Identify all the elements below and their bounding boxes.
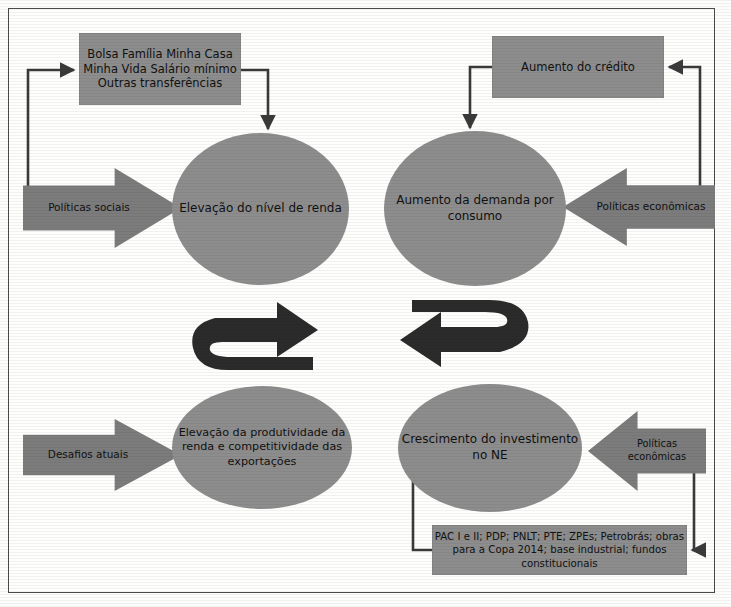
node-productivity-competitiveness-label: Elevação da produtividade da renda e com… xyxy=(172,426,352,470)
block-arrow-current-challenges-label: Desafios atuais xyxy=(48,448,128,462)
node-investment-growth-ne[interactable]: Crescimento do investimento no NE xyxy=(398,384,582,512)
node-productivity-competitiveness[interactable]: Elevação da produtividade da renda e com… xyxy=(172,386,352,509)
box-investment-programs-label: PAC I e II; PDP; PNLT; PTE; ZPEs; Petrob… xyxy=(432,530,687,569)
node-investment-growth-ne-label: Crescimento do investimento no NE xyxy=(398,432,582,463)
node-income-growth[interactable]: Elevação do nível de renda xyxy=(172,133,349,285)
cycle-arrow-left xyxy=(192,302,318,370)
box-credit-label: Aumento do crédito xyxy=(492,60,664,75)
block-arrow-social-policies-label: Políticas sociais xyxy=(48,201,130,215)
cycle-arrow-right xyxy=(400,300,528,367)
box-social-programs-label: Bolsa Família Minha Casa Minha Vida Salá… xyxy=(79,47,241,91)
box-investment-programs[interactable]: PAC I e II; PDP; PNLT; PTE; ZPEs; Petrob… xyxy=(432,525,687,575)
box-credit[interactable]: Aumento do crédito xyxy=(492,36,664,98)
block-arrow-economic-policies-top-label: Políticas econômicas xyxy=(597,200,706,214)
diagram-canvas: Políticas sociais Políticas econômicas D… xyxy=(0,0,731,607)
node-consumption-demand-label: Aumento da demanda por consumo xyxy=(384,193,566,224)
box-social-programs[interactable]: Bolsa Família Minha Casa Minha Vida Salá… xyxy=(79,33,241,105)
node-consumption-demand[interactable]: Aumento da demanda por consumo xyxy=(384,131,566,286)
block-arrow-economic-policies-bottom-label: Políticas econômicas xyxy=(608,438,706,463)
node-income-growth-label: Elevação do nível de renda xyxy=(179,201,342,217)
